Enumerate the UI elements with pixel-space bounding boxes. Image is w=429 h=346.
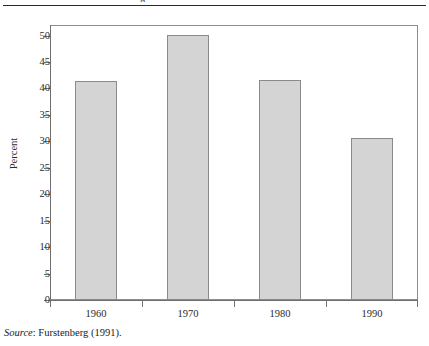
y-axis-tick-label: 40 xyxy=(12,83,50,93)
source-text: Furstenberg (1991). xyxy=(38,327,121,338)
y-axis-tick-label: 15 xyxy=(12,216,50,226)
y-axis-tick-label: 0 xyxy=(12,295,50,305)
bar xyxy=(259,80,301,300)
x-axis-tick xyxy=(234,300,235,307)
y-axis-tick-label: 50 xyxy=(12,31,50,41)
x-axis-tick-label: 1970 xyxy=(148,308,228,320)
y-axis-title: Percent xyxy=(8,119,19,189)
source-label: Source xyxy=(4,327,33,338)
y-axis-tick-label: 5 xyxy=(12,269,50,279)
x-axis-tick xyxy=(50,300,51,307)
source-note: Source: Furstenberg (1991). xyxy=(4,326,122,339)
bar xyxy=(75,81,117,300)
x-axis-tick xyxy=(417,300,418,307)
bar xyxy=(351,138,393,300)
bar xyxy=(167,35,209,300)
x-axis-tick-label: 1980 xyxy=(240,308,320,320)
y-axis-tick-label: 45 xyxy=(12,57,50,67)
x-axis-tick-label: 1990 xyxy=(332,308,412,320)
x-axis-tick xyxy=(142,300,143,307)
y-axis-tick-label: 20 xyxy=(12,189,50,199)
y-axis-tick-label: 10 xyxy=(12,242,50,252)
x-axis-tick-label: 1960 xyxy=(56,308,136,320)
x-axis-tick xyxy=(326,300,327,307)
source-separator: : xyxy=(33,327,36,338)
bar-chart: 05101520253035404550 Percent 19601970198… xyxy=(0,0,429,318)
y-axis-line xyxy=(50,25,51,300)
